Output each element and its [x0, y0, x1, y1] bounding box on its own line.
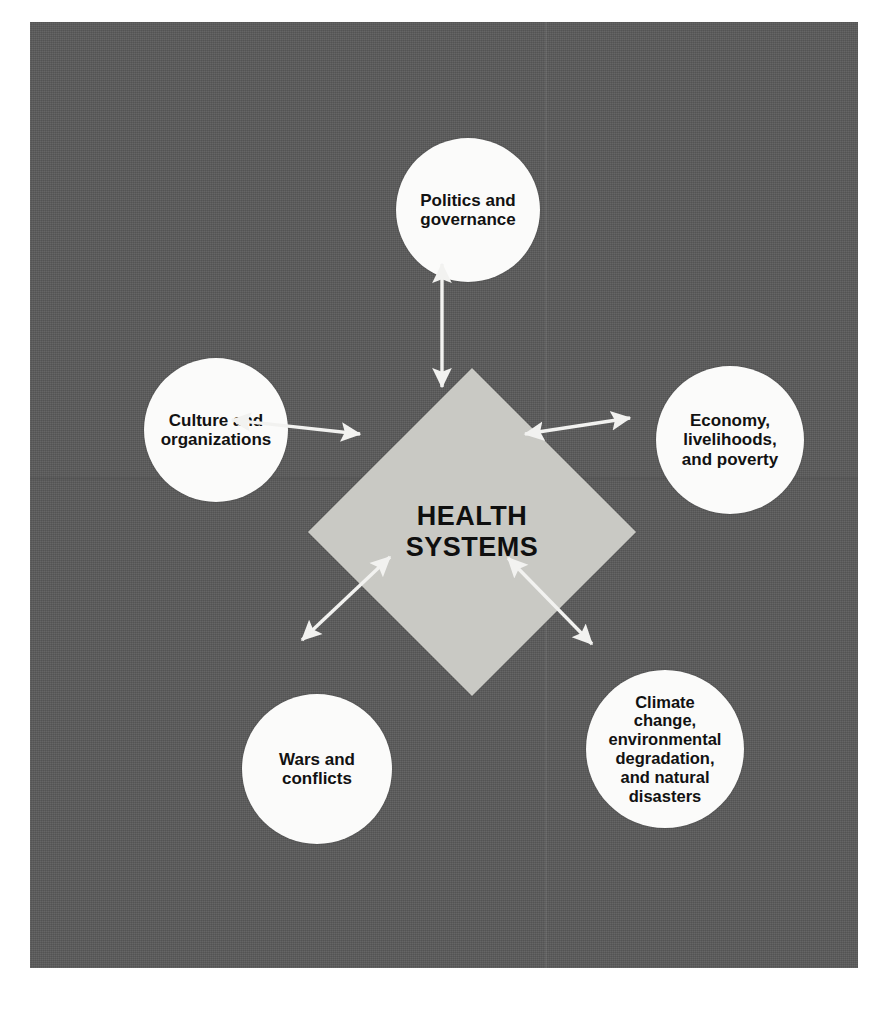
node-politics-and-governance[interactable]: Politics and governance [396, 138, 540, 282]
diagram-panel: HEALTH SYSTEMS Politics and governance C… [30, 22, 858, 968]
node-culture-and-organizations[interactable]: Culture and organizations [144, 358, 288, 502]
node-climate-label: Climate change, environmental degradatio… [603, 693, 728, 806]
figure-page: HEALTH SYSTEMS Politics and governance C… [0, 0, 884, 1013]
node-culture-label: Culture and organizations [155, 411, 278, 450]
node-economy-livelihoods-and-poverty[interactable]: Economy, livelihoods, and poverty [656, 366, 804, 514]
center-node-label: HEALTH SYSTEMS [356, 416, 588, 648]
node-climate-change-and-disasters[interactable]: Climate change, environmental degradatio… [586, 670, 744, 828]
node-politics-label: Politics and governance [414, 191, 521, 230]
node-wars-label: Wars and conflicts [273, 750, 361, 789]
node-economy-label: Economy, livelihoods, and poverty [676, 411, 784, 469]
node-wars-and-conflicts[interactable]: Wars and conflicts [242, 694, 392, 844]
center-node-health-systems[interactable]: HEALTH SYSTEMS [356, 416, 588, 648]
